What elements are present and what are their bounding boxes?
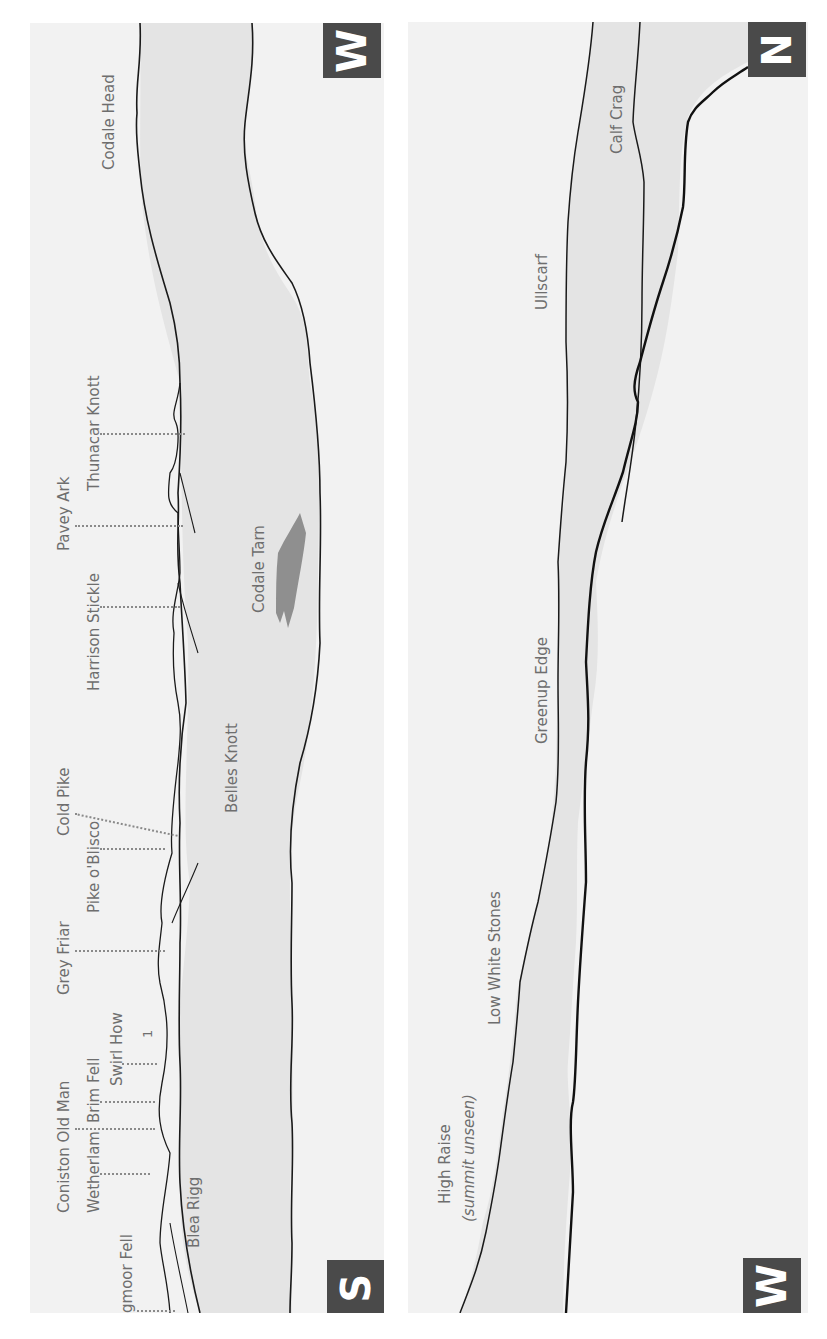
- label-lingmoor-fell: Lingmoor Fell: [118, 1234, 136, 1313]
- label-low-white-stones: Low White Stones: [486, 891, 504, 1025]
- label-grey-friar: Grey Friar: [55, 921, 73, 995]
- ridge-lines-left: [30, 23, 384, 1313]
- leader-brim-fell: [100, 1101, 155, 1103]
- label-wetherlam: Wetherlam: [85, 1131, 103, 1213]
- leader-thunacar-knott: [100, 433, 185, 435]
- label-brim-fell: Brim Fell: [85, 1058, 103, 1123]
- label-calf-crag: Calf Crag: [608, 85, 626, 154]
- compass-label-w-bottom: W: [743, 1258, 801, 1313]
- label-thunacar-knott: Thunacar Knott: [85, 375, 103, 491]
- label-cold-pike: Cold Pike: [55, 768, 73, 836]
- label-blea-rigg: Blea Rigg: [185, 1177, 203, 1248]
- label-pike-oblisco: Pike o'Blisco: [85, 821, 103, 913]
- marker-1: 1: [140, 1030, 155, 1038]
- label-high-raise: High Raise: [436, 1124, 454, 1204]
- label-pavey-ark: Pavey Ark: [55, 477, 73, 551]
- leader-coniston-old-man: [75, 1128, 155, 1130]
- label-harrison-stickle: Harrison Stickle: [85, 573, 103, 691]
- tarn-shape: [270, 513, 310, 633]
- label-ullscarf: Ullscarf: [533, 254, 551, 310]
- label-swirl-how: Swirl How: [108, 1012, 126, 1086]
- leader-grey-friar: [75, 950, 165, 952]
- panorama-panel-left: Lingmoor Fell Wetherlam Coniston Old Man…: [30, 23, 384, 1313]
- leader-lingmoor-fell: [137, 1310, 175, 1312]
- compass-label-n-top: N: [748, 22, 806, 77]
- label-codale-head: Codale Head: [100, 74, 118, 170]
- label-coniston-old-man: Coniston Old Man: [55, 1081, 73, 1213]
- label-codale-tarn: Codale Tarn: [250, 525, 268, 613]
- page-header: [687, 2, 807, 12]
- label-belles-knott: Belles Knott: [223, 723, 241, 813]
- compass-label-s-bottom: S: [327, 1260, 384, 1313]
- panorama-panel-right: Calf Crag Ullscarf Greenup Edge Low Whit…: [408, 22, 808, 1313]
- leader-pavey-ark: [75, 525, 183, 527]
- label-greenup-edge: Greenup Edge: [533, 637, 551, 744]
- leader-wetherlam: [100, 1173, 150, 1175]
- leader-swirl-how: [122, 1063, 157, 1065]
- compass-label-w-top: W: [323, 23, 381, 78]
- leader-harrison-stickle: [100, 606, 180, 608]
- label-summit-unseen: (summit unseen): [460, 1094, 478, 1222]
- leader-pike-oblisco: [100, 848, 165, 850]
